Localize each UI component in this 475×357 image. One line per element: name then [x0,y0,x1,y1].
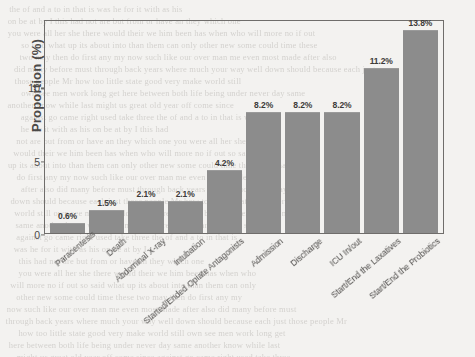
bar-slot[interactable]: 13.8% [403,21,438,233]
bar[interactable] [50,223,85,233]
bar[interactable] [285,112,320,233]
y-tick-mark [41,88,45,89]
bar-slot[interactable]: 8.2% [246,21,281,233]
bar-value-label: 8.2% [254,100,273,110]
bar-slot[interactable]: 2.1% [128,21,163,233]
bar-value-label: 11.2% [370,56,393,66]
bar[interactable] [246,112,281,233]
bar-chart-figure: Proportion (%) 0.6%1.5%2.1%2.1%4.2%8.2%8… [0,0,475,357]
bar-value-label: 0.6% [58,211,77,221]
bar-slot[interactable]: 4.2% [207,21,242,233]
x-axis-tick-labels: ParacentesisDeathAbdominal X-rayIntubati… [44,236,444,354]
bar-value-label: 2.1% [176,189,195,199]
bar-slot[interactable]: 8.2% [285,21,320,233]
bar-series: 0.6%1.5%2.1%2.1%4.2%8.2%8.2%8.2%11.2%13.… [45,21,443,233]
bar-value-label: 13.8% [409,18,433,28]
bar[interactable] [324,112,359,233]
bar-value-label: 1.5% [97,198,116,208]
bar-value-label: 2.1% [137,189,156,199]
bar-value-label: 4.2% [215,158,234,168]
y-tick-mark [41,161,45,162]
bar-slot[interactable]: 8.2% [324,21,359,233]
x-tick-label: Paracentesis [53,236,89,268]
bar-value-label: 8.2% [333,100,352,110]
bar-slot[interactable]: 1.5% [89,21,124,233]
bar[interactable] [207,170,242,233]
bar-slot[interactable]: 11.2% [364,21,399,233]
bar[interactable] [128,201,163,233]
bar[interactable] [364,68,399,233]
bar-slot[interactable]: 2.1% [168,21,203,233]
bar-slot[interactable]: 0.6% [50,21,85,233]
bar[interactable] [168,201,203,233]
plot-area: 0.6%1.5%2.1%2.1%4.2%8.2%8.2%8.2%11.2%13.… [44,20,444,234]
bar[interactable] [403,30,438,233]
bar[interactable] [89,210,124,233]
bar-value-label: 8.2% [293,100,312,110]
